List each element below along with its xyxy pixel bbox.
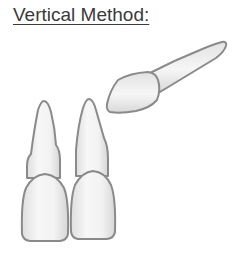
- tilted-tooth-crown: [107, 72, 159, 113]
- left-tooth-root: [27, 101, 60, 178]
- left-tooth: [22, 101, 68, 241]
- left-tooth-crown: [22, 174, 68, 241]
- middle-tooth-crown: [71, 171, 115, 239]
- tilted-tooth: [107, 42, 226, 113]
- tilted-tooth-root: [150, 42, 226, 92]
- middle-tooth: [71, 99, 115, 239]
- middle-tooth-root: [76, 99, 108, 176]
- teeth-diagram: [0, 0, 234, 253]
